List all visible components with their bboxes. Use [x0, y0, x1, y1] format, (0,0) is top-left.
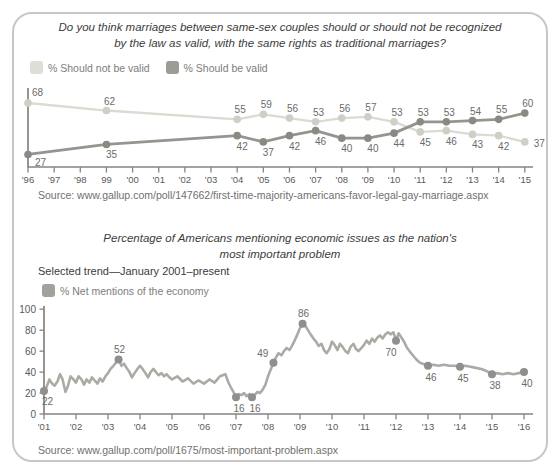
- marriage-chart-title: Do you think marriages between same-sex …: [45, 19, 515, 51]
- legend-item-should-be-valid: % Should be valid: [166, 61, 268, 74]
- economy-title-line-2: most important problem: [220, 248, 341, 260]
- marriage-title-line-2: by the law as valid, with the same right…: [114, 37, 446, 49]
- economy-title-line-1: Percentage of Americans mentioning econo…: [103, 232, 456, 244]
- economy-chart-subtitle: Selected trend—January 2001–present: [38, 265, 229, 277]
- legend-swatch-net-mentions: [42, 284, 55, 297]
- economy-chart-source: Source: www.gallup.com/poll/1675/most-im…: [38, 444, 338, 456]
- legend-label-net-mentions: % Net mentions of the economy: [60, 285, 209, 297]
- marriage-chart-legend: % Should not be valid % Should be valid: [30, 61, 268, 74]
- marriage-title-line-1: Do you think marriages between same-sex …: [58, 21, 501, 33]
- legend-item-should-not-be-valid: % Should not be valid: [30, 61, 150, 74]
- legend-label-should-not-be-valid: % Should not be valid: [48, 62, 150, 74]
- legend-swatch-should-be-valid: [166, 61, 179, 74]
- legend-label-should-be-valid: % Should be valid: [184, 62, 268, 74]
- economy-chart-title: Percentage of Americans mentioning econo…: [45, 230, 515, 262]
- economy-chart-legend: % Net mentions of the economy: [42, 284, 209, 297]
- figure-page: Do you think marriages between same-sex …: [0, 0, 560, 476]
- marriage-chart-source: Source: www.gallup.com/poll/147662/first…: [38, 189, 489, 201]
- legend-swatch-should-not-be-valid: [30, 61, 43, 74]
- legend-item-net-mentions: % Net mentions of the economy: [42, 284, 209, 297]
